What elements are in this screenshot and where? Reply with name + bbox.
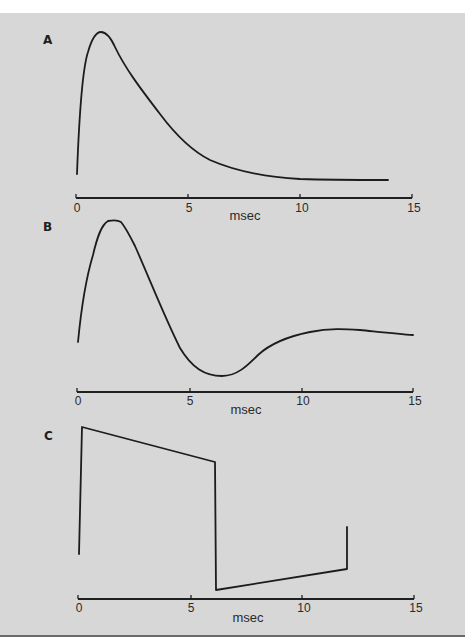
x-axis-a: 0 5 10 15 msec: [74, 194, 421, 223]
trace-b: [78, 220, 413, 376]
panel-label-c: C: [44, 429, 53, 443]
tick-label-b-15: 15: [408, 394, 422, 408]
trace-a: [77, 32, 388, 180]
chart-c: C 0 5 10 15 msec: [44, 427, 423, 625]
panel-label-b: B: [43, 220, 52, 234]
panel-label-a: A: [43, 33, 53, 47]
x-axis-title-a: msec: [229, 208, 261, 223]
tick-label-c-10: 10: [297, 601, 311, 615]
trace-c: [79, 427, 347, 590]
x-axis-title-b: msec: [230, 402, 262, 417]
figure-svg: A 0 5 10 15 msec B 0 5 10 15 ms: [0, 0, 476, 642]
tick-label-b-10: 10: [296, 394, 310, 408]
x-axis-b: 0 5 10 15 msec: [75, 388, 422, 417]
tick-label-a-0: 0: [74, 201, 81, 215]
tick-label-a-15: 15: [407, 201, 421, 215]
tick-label-b-0: 0: [75, 394, 82, 408]
tick-label-b-5: 5: [187, 394, 194, 408]
tick-label-c-5: 5: [188, 601, 195, 615]
tick-label-c-0: 0: [76, 601, 83, 615]
tick-label-c-15: 15: [409, 601, 423, 615]
tick-label-a-10: 10: [295, 201, 309, 215]
chart-b: B 0 5 10 15 msec: [43, 220, 422, 417]
x-axis-title-c: msec: [232, 610, 264, 625]
x-axis-c: 0 5 10 15 msec: [76, 595, 423, 625]
chart-a: A 0 5 10 15 msec: [43, 32, 421, 223]
tick-label-a-5: 5: [186, 201, 193, 215]
